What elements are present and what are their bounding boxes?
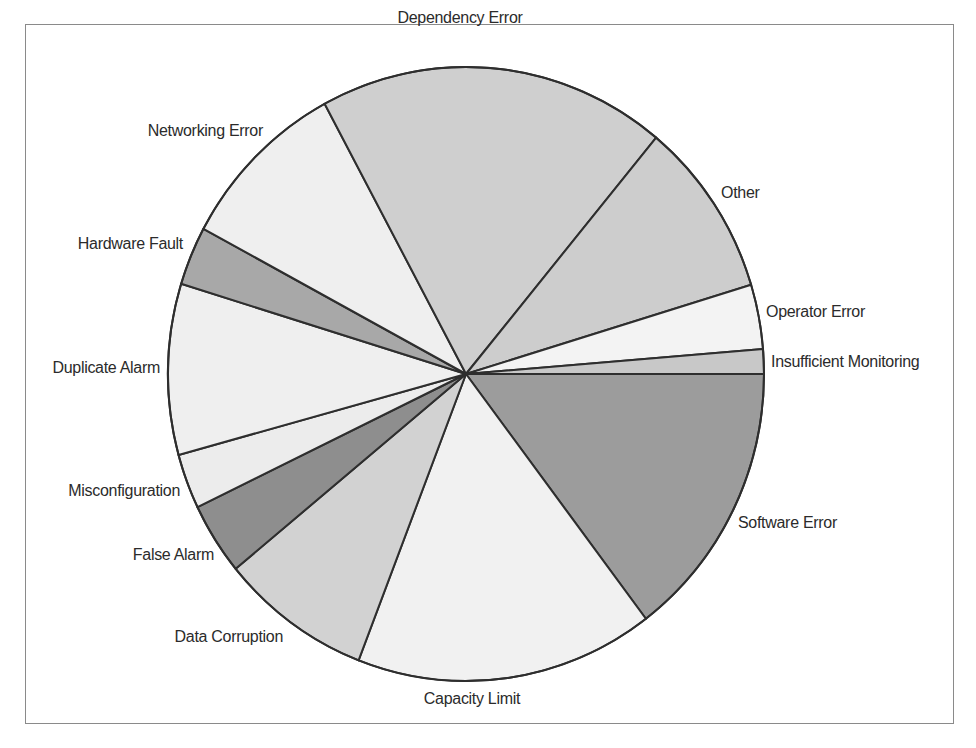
slice-label-hardware-fault: Hardware Fault <box>78 235 184 252</box>
slice-label-false-alarm: False Alarm <box>133 546 214 563</box>
slice-label-other: Other <box>721 184 760 201</box>
slice-label-networking-error: Networking Error <box>148 122 264 139</box>
slice-label-operator-error: Operator Error <box>766 303 866 320</box>
slice-label-insufficient-monitoring: Insufficient Monitoring <box>771 353 919 370</box>
slice-label-software-error: Software Error <box>738 514 838 531</box>
slice-label-dependency-error: Dependency Error <box>397 9 523 26</box>
slice-label-data-corruption: Data Corruption <box>175 628 283 645</box>
slice-label-duplicate-alarm: Duplicate Alarm <box>52 359 160 376</box>
pie-chart: Software ErrorCapacity LimitData Corrupt… <box>0 0 976 748</box>
pie-slices <box>168 67 764 681</box>
slice-label-capacity-limit: Capacity Limit <box>424 690 521 707</box>
slice-label-misconfiguration: Misconfiguration <box>68 482 180 499</box>
